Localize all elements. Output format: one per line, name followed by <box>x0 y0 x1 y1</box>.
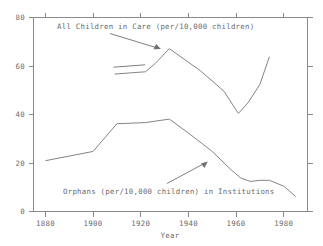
series-line-all-children-in-care <box>115 49 270 114</box>
x-axis-ticks <box>45 212 283 217</box>
y-tick-label-40: 40 <box>16 110 26 119</box>
x-tick-label-1920: 1920 <box>131 219 150 228</box>
y-tick-label-80: 80 <box>16 13 26 22</box>
annotation-arrow-all-children-in-care <box>110 34 161 50</box>
x-tick-label-1980: 1980 <box>274 219 293 228</box>
y-axis-ticks-right <box>308 18 313 212</box>
annotation-leader-secondary <box>114 65 146 67</box>
y-axis-ticks <box>29 18 34 212</box>
x-tick-label-1960: 1960 <box>227 219 246 228</box>
y-tick-label-20: 20 <box>16 159 26 168</box>
annotation-label-orphans-in-institutions: Orphans (per/10,000 children) in Institu… <box>63 187 274 196</box>
chart-figure: 0 20 40 60 80 1880 1900 1920 1940 1960 <box>0 0 323 246</box>
annotation-label-all-children-in-care: All Children in Care (per/10,000 childre… <box>57 22 254 31</box>
x-tick-label-1900: 1900 <box>84 219 103 228</box>
x-tick-label-1880: 1880 <box>36 219 55 228</box>
annotation-arrow-orphans-in-institutions <box>167 162 208 184</box>
x-axis-title: Year <box>161 231 180 240</box>
x-axis-ticks-top <box>45 13 283 18</box>
x-tick-label-1940: 1940 <box>179 219 198 228</box>
series-line-orphans-in-institutions <box>45 119 295 196</box>
y-tick-label-0: 0 <box>20 207 25 216</box>
line-chart: 0 20 40 60 80 1880 1900 1920 1940 1960 <box>0 0 323 246</box>
y-tick-label-60: 60 <box>16 62 26 71</box>
